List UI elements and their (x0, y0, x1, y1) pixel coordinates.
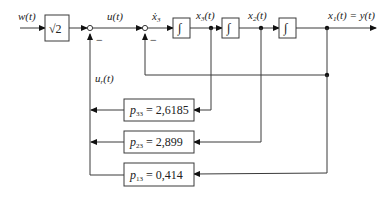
x2-label: x2(t) (247, 9, 267, 23)
x3dot-label: ẋ3 (151, 10, 161, 24)
sum-junction-1 (87, 25, 92, 30)
x3-label: x3(t) (195, 9, 215, 23)
sum-junction-2 (142, 25, 147, 30)
x2-to-p23-line (194, 28, 261, 142)
ur-label: ur(t) (95, 72, 114, 86)
ur-feedback-line (90, 34, 124, 175)
sum1-minus: − (96, 33, 103, 47)
input-label: w(t) (18, 10, 36, 23)
u-label: u(t) (107, 10, 123, 23)
prefilter-gain: √2 (49, 22, 62, 36)
block-diagram: w(t) √2 − u(t) − ẋ3 ∫ x3(t) ∫ x2(t) ∫ x1… (0, 0, 389, 200)
x3-to-p33-line (194, 28, 211, 110)
sum2-minus: − (150, 33, 157, 47)
output-label: x1(t) = y(t) (327, 9, 375, 23)
